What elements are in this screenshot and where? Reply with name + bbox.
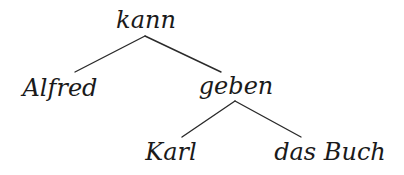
edge-kann-alfred	[75, 36, 145, 72]
edge-geben-karl	[182, 101, 235, 137]
node-karl: Karl	[144, 138, 196, 166]
node-das-buch: das Buch	[274, 138, 386, 166]
node-geben: geben	[199, 72, 274, 100]
node-alfred: Alfred	[21, 74, 98, 102]
dependency-tree: kann Alfred geben Karl das Buch	[0, 0, 404, 175]
edge-kann-geben	[145, 36, 221, 72]
node-kann: kann	[116, 6, 176, 34]
edge-geben-das-buch	[235, 101, 301, 137]
